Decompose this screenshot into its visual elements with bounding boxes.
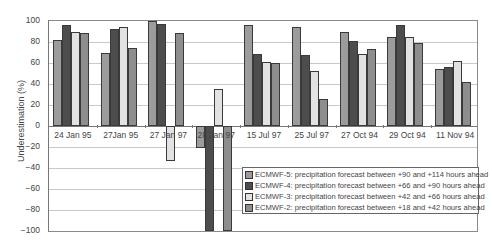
bar bbox=[414, 43, 423, 126]
x-tick bbox=[431, 125, 432, 128]
bar bbox=[71, 32, 80, 127]
legend-swatch-icon bbox=[245, 204, 253, 212]
legend-swatch-icon bbox=[245, 182, 253, 190]
y-tick-label: 0 bbox=[12, 120, 40, 130]
legend-item: ECMWF-5: precipitation forecast between … bbox=[245, 169, 476, 180]
bar bbox=[128, 48, 137, 126]
x-category-label: 27 Jan 97 bbox=[145, 130, 193, 140]
y-tick-label: 100 bbox=[12, 15, 40, 25]
legend: ECMWF-5: precipitation forecast between … bbox=[242, 167, 479, 214]
legend-swatch-icon bbox=[245, 171, 253, 179]
bar bbox=[62, 25, 71, 126]
x-category-label: 27 Oct 94 bbox=[336, 130, 384, 140]
bar bbox=[175, 33, 184, 126]
bar bbox=[319, 99, 328, 126]
legend-item: ECMWF-4: precipitation forecast between … bbox=[245, 180, 476, 191]
bar bbox=[244, 25, 253, 126]
zero-line bbox=[49, 126, 477, 127]
x-tick bbox=[97, 125, 98, 128]
legend-item: ECMWF-3: precipitation forecast between … bbox=[245, 191, 476, 202]
bar bbox=[396, 25, 405, 126]
bar bbox=[223, 126, 232, 231]
bar bbox=[101, 53, 110, 127]
x-category-label: 15 Jul 97 bbox=[240, 130, 288, 140]
x-tick bbox=[240, 125, 241, 128]
x-category-label: 28 Jan 97 bbox=[192, 130, 240, 140]
gridline bbox=[49, 147, 477, 148]
legend-label: ECMWF-4: precipitation forecast between … bbox=[255, 181, 485, 190]
bar bbox=[349, 41, 358, 126]
y-tick-label: −100 bbox=[12, 225, 40, 235]
y-tick-label: 60 bbox=[12, 57, 40, 67]
x-tick bbox=[336, 125, 337, 128]
bar bbox=[310, 71, 319, 126]
bar bbox=[119, 27, 128, 126]
bar bbox=[253, 54, 262, 126]
bar bbox=[80, 33, 89, 126]
y-tick-label: −40 bbox=[12, 162, 40, 172]
bar bbox=[444, 67, 453, 126]
bar bbox=[157, 24, 166, 126]
bar bbox=[148, 21, 157, 126]
bar bbox=[462, 82, 471, 126]
y-tick-label: −60 bbox=[12, 183, 40, 193]
bar bbox=[367, 49, 376, 126]
y-tick-label: −80 bbox=[12, 204, 40, 214]
x-category-label: 24 Jan 95 bbox=[49, 130, 97, 140]
bar bbox=[405, 37, 414, 126]
bar bbox=[205, 126, 214, 231]
bar bbox=[214, 89, 223, 126]
x-tick bbox=[383, 125, 384, 128]
y-tick-label: −20 bbox=[12, 141, 40, 151]
x-tick bbox=[192, 125, 193, 128]
bar bbox=[110, 29, 119, 126]
bar bbox=[301, 55, 310, 126]
x-category-label: 11 Nov 94 bbox=[431, 130, 479, 140]
bar bbox=[453, 61, 462, 126]
legend-label: ECMWF-2: precipitation forecast between … bbox=[255, 203, 485, 212]
bar bbox=[358, 54, 367, 126]
bar bbox=[387, 37, 396, 126]
y-tick-label: 80 bbox=[12, 36, 40, 46]
y-tick-label: 20 bbox=[12, 99, 40, 109]
bar bbox=[53, 40, 62, 126]
bar bbox=[292, 27, 301, 126]
bar bbox=[435, 69, 444, 126]
bar bbox=[340, 32, 349, 127]
legend-label: ECMWF-3: precipitation forecast between … bbox=[255, 192, 485, 201]
legend-label: ECMWF-5: precipitation forecast between … bbox=[255, 170, 488, 179]
y-tick-label: 40 bbox=[12, 78, 40, 88]
x-category-label: 25 Jul 97 bbox=[288, 130, 336, 140]
bar bbox=[271, 63, 280, 126]
x-category-label: 27Jan 95 bbox=[97, 130, 145, 140]
legend-swatch-icon bbox=[245, 193, 253, 201]
x-tick bbox=[288, 125, 289, 128]
x-tick bbox=[145, 125, 146, 128]
x-category-label: 29 Oct 94 bbox=[383, 130, 431, 140]
bar bbox=[262, 62, 271, 126]
legend-item: ECMWF-2: precipitation forecast between … bbox=[245, 202, 476, 213]
